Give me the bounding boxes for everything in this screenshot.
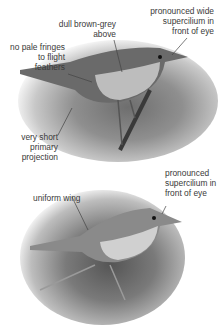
bottom-bird-shape: [30, 208, 182, 300]
annotation-upperparts: dull brown-grey above: [48, 19, 116, 39]
label-line: pronounced: [165, 168, 218, 178]
label-line: dull brown-grey: [48, 19, 116, 29]
label-line: uniform wing: [33, 193, 80, 203]
label-line: front of eye: [124, 26, 214, 36]
label-line: to flight: [0, 52, 65, 62]
label-line: front of eye: [165, 188, 218, 198]
label-line: projection: [10, 152, 58, 162]
label-line: above: [48, 29, 116, 39]
label-line: primary: [10, 142, 58, 152]
label-line: supercilium in: [165, 178, 218, 188]
annotation-supercilium: pronounced supercilium in front of eye: [165, 168, 218, 198]
label-line: no pale fringes: [0, 42, 65, 52]
label-line: supercilium in: [124, 16, 214, 26]
annotation-fringes: no pale fringes to flight feathers: [0, 42, 65, 72]
label-line: very short: [10, 132, 58, 142]
annotation-uniform-wing: uniform wing: [33, 193, 80, 203]
annotation-supercilium-wide: pronounced wide supercilium in front of …: [124, 6, 214, 36]
label-line: pronounced wide: [124, 6, 214, 16]
label-line: feathers: [0, 62, 65, 72]
annotation-primary-projection: very short primary projection: [10, 132, 58, 162]
